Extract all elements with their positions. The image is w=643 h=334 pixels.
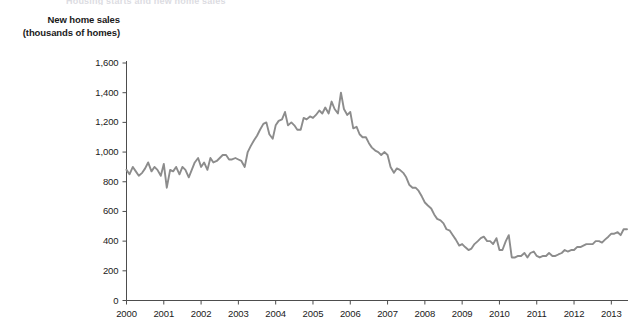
x-tick-label: 2005 [293, 308, 333, 319]
clipped-header-text: Housing starts and new home sales [66, 0, 366, 5]
y-tick-label: 800 [79, 176, 119, 187]
x-tick-label: 2011 [517, 308, 557, 319]
y-axis-title-line2: (thousands of homes) [0, 27, 120, 40]
x-tick-label: 2000 [107, 308, 147, 319]
y-tick-label: 600 [79, 205, 119, 216]
data-series [127, 93, 628, 258]
x-tick-label: 2013 [591, 308, 631, 319]
y-tick-label: 400 [79, 235, 119, 246]
y-axis-title-line1: New home sales [0, 14, 120, 27]
x-tick-label: 2007 [368, 308, 408, 319]
y-tick-label: 1,200 [79, 116, 119, 127]
y-tick-label: 1,000 [79, 146, 119, 157]
series-line-new-home-sales [127, 93, 628, 258]
y-tick-label: 0 [79, 295, 119, 306]
y-tick-label: 1,600 [79, 57, 119, 68]
axis-ticks [123, 63, 612, 305]
line-chart-plot [0, 0, 643, 334]
x-tick-label: 2004 [256, 308, 296, 319]
y-axis-title: New home sales (thousands of homes) [0, 14, 120, 39]
x-tick-label: 2012 [554, 308, 594, 319]
x-tick-label: 2002 [181, 308, 221, 319]
x-tick-label: 2003 [218, 308, 258, 319]
y-tick-label: 200 [79, 265, 119, 276]
y-tick-label: 1,400 [79, 87, 119, 98]
x-tick-label: 2006 [330, 308, 370, 319]
x-tick-label: 2008 [405, 308, 445, 319]
x-tick-label: 2001 [144, 308, 184, 319]
chart-figure: Housing starts and new home sales New ho… [0, 0, 643, 334]
x-tick-label: 2009 [442, 308, 482, 319]
axes [127, 61, 629, 301]
x-tick-label: 2010 [479, 308, 519, 319]
